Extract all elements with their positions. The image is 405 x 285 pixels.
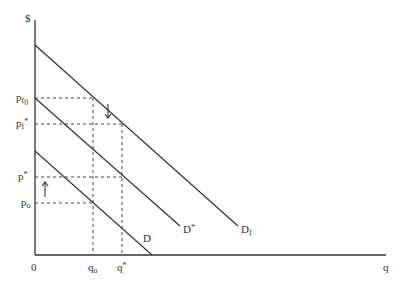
curve-label-d: D xyxy=(143,233,151,244)
q-star-label: q* xyxy=(117,262,127,273)
origin-label: 0 xyxy=(31,262,37,273)
x-axis-label: q xyxy=(383,262,389,273)
p-star-label: p* xyxy=(18,171,28,182)
down-arrow-icon xyxy=(105,104,111,118)
curve-label-df: Df xyxy=(241,224,252,237)
demand-curve-df xyxy=(35,45,238,226)
qo-label: qo xyxy=(88,262,98,275)
po-label: po xyxy=(21,197,31,210)
y-axis-label: $ xyxy=(25,13,31,24)
supply-demand-diagram: $ 0 q pf0 pf* p* po qo q* D D* Df xyxy=(0,0,405,285)
diagram-graphics xyxy=(0,0,405,285)
curve-label-d-star: D* xyxy=(183,224,195,235)
pf0-label: pf0 xyxy=(16,92,28,107)
up-arrow-icon xyxy=(42,182,48,197)
pf-star-label: pf* xyxy=(16,118,28,131)
